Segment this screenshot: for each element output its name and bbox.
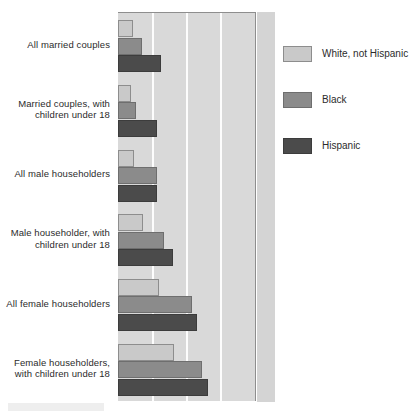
category-label: Male householder, with children under 18 xyxy=(2,227,110,249)
plot-right-margin xyxy=(257,12,275,402)
category-label: All female householders xyxy=(2,298,110,309)
bar xyxy=(118,249,173,266)
bar xyxy=(118,232,164,249)
legend-label: White, not Hispanic xyxy=(322,48,408,59)
legend-swatch xyxy=(283,138,312,154)
bar xyxy=(118,214,143,231)
bar-group xyxy=(118,207,255,272)
bar xyxy=(118,344,174,361)
bar xyxy=(118,20,133,37)
bar-group xyxy=(118,142,255,207)
bar xyxy=(118,85,131,102)
legend-swatch xyxy=(283,92,312,108)
bar-chart: All married couplesMarried couples, with… xyxy=(0,0,417,415)
bar xyxy=(118,296,192,313)
plot-area xyxy=(118,12,256,401)
bar xyxy=(118,167,157,184)
scan-artifact xyxy=(8,403,104,411)
bar xyxy=(118,120,157,137)
legend: White, not HispanicBlackHispanic xyxy=(283,46,415,184)
bar-group xyxy=(118,78,255,143)
bar-group xyxy=(118,336,255,401)
legend-label: Hispanic xyxy=(322,140,360,151)
legend-item[interactable]: Black xyxy=(283,92,415,109)
category-label: All male householders xyxy=(2,168,110,179)
legend-swatch xyxy=(283,46,312,62)
category-axis-labels: All married couplesMarried couples, with… xyxy=(0,12,114,400)
bar xyxy=(118,314,197,331)
legend-label: Black xyxy=(322,94,346,105)
bar-group xyxy=(118,13,255,78)
category-label: Female householders, with children under… xyxy=(2,357,110,379)
bar xyxy=(118,102,136,119)
bar xyxy=(118,38,142,55)
category-label: Married couples, with children under 18 xyxy=(2,98,110,120)
bar xyxy=(118,55,161,72)
bar xyxy=(118,150,134,167)
bar xyxy=(118,361,202,378)
bar xyxy=(118,185,157,202)
category-label: All married couples xyxy=(2,39,110,50)
bar xyxy=(118,379,208,396)
legend-item[interactable]: White, not Hispanic xyxy=(283,46,415,63)
bar-group xyxy=(118,272,255,337)
legend-item[interactable]: Hispanic xyxy=(283,138,415,155)
bar xyxy=(118,279,159,296)
